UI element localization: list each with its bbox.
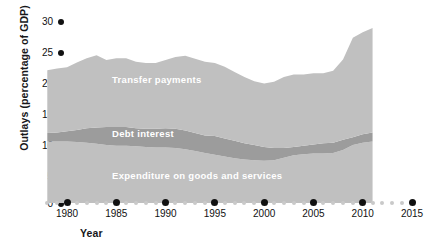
y-tick-label-30: 30 xyxy=(42,17,53,27)
x-tick-dot-major xyxy=(409,199,416,206)
x-tick-dot-major xyxy=(310,199,317,206)
x-tick-dot-minor xyxy=(351,201,355,205)
x-tick-dot-minor xyxy=(331,201,335,205)
x-tick-dot-minor xyxy=(85,201,89,205)
x-tick-dot-minor xyxy=(292,201,296,205)
x-tick-dot-minor xyxy=(144,201,148,205)
x-tick-dot-minor xyxy=(380,201,384,205)
x-tick-dot-minor xyxy=(173,201,177,205)
x-tick-label-2010: 2010 xyxy=(352,208,374,219)
stacked-area-paths xyxy=(64,14,416,206)
y-tick-25: 25 xyxy=(0,47,64,59)
x-tick-dot-minor xyxy=(252,201,256,205)
x-tick-dot-major xyxy=(359,199,366,206)
x-tick-dot-minor xyxy=(282,201,286,205)
x-tick-label-1995: 1995 xyxy=(204,208,226,219)
x-axis-dotted-baseline xyxy=(55,200,427,208)
x-tick-dot-minor xyxy=(390,201,394,205)
x-tick-dot-minor xyxy=(75,201,79,205)
y-tick-label-25: 25 xyxy=(42,48,53,58)
x-tick-dot-minor xyxy=(95,201,99,205)
x-tick-dot-major xyxy=(113,199,120,206)
x-tick-dot-minor xyxy=(302,201,306,205)
x-tick-dot-minor xyxy=(183,201,187,205)
x-tick-dot-major xyxy=(162,199,169,206)
x-axis-title: Year xyxy=(80,227,103,239)
x-tick-dot-minor xyxy=(233,201,237,205)
x-tick-dot-minor xyxy=(203,201,207,205)
x-tick-dot-minor xyxy=(242,201,246,205)
y-tick-30: 30 xyxy=(0,16,64,28)
x-tick-label-1985: 1985 xyxy=(105,208,127,219)
x-tick-dot-minor xyxy=(154,201,158,205)
x-tick-label-2005: 2005 xyxy=(302,208,324,219)
x-tick-label-1980: 1980 xyxy=(56,208,78,219)
x-tick-label-1990: 1990 xyxy=(154,208,176,219)
plot-area xyxy=(64,14,416,206)
x-tick-dot-major xyxy=(64,199,71,206)
x-tick-dot-minor xyxy=(104,201,108,205)
x-tick-dot-major xyxy=(261,199,268,206)
x-tick-label-2000: 2000 xyxy=(253,208,275,219)
x-tick-dot-minor xyxy=(341,201,345,205)
area-chart: Outlays (percentage of GDP) 30 25 20 15 … xyxy=(0,0,437,247)
x-tick-dot-minor xyxy=(134,201,138,205)
x-tick-dot-major xyxy=(211,199,218,206)
x-tick-dot-minor xyxy=(272,201,276,205)
x-tick-dot-minor xyxy=(223,201,227,205)
x-tick-dot-minor xyxy=(371,201,375,205)
x-tick-dot-minor xyxy=(400,201,404,205)
x-tick-dot-minor xyxy=(124,201,128,205)
x-tick-dot-minor xyxy=(321,201,325,205)
x-tick-label-2015: 2015 xyxy=(401,208,423,219)
x-tick-dot-minor xyxy=(193,201,197,205)
x-tick-dot-minor xyxy=(55,201,59,205)
